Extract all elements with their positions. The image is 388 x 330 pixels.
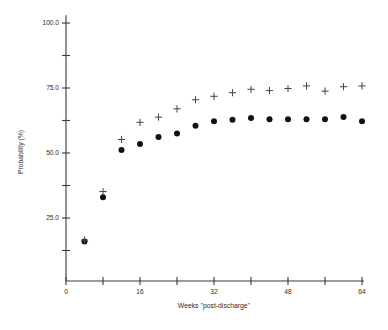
y-tick-label: 75.0: [46, 84, 59, 91]
data-point-circle: [137, 141, 143, 147]
data-point-circle: [267, 116, 273, 122]
x-tick-label: 16: [136, 288, 144, 295]
data-point-circle: [341, 114, 347, 120]
y-axis-title: Probability (%): [17, 130, 25, 174]
data-point-circle: [100, 194, 106, 200]
data-point-circle: [285, 116, 291, 122]
y-tick-label: 25.0: [46, 214, 59, 221]
data-point-circle: [156, 134, 162, 140]
x-tick-label: 32: [210, 288, 218, 295]
data-point-circle: [211, 118, 217, 124]
data-point-circle: [119, 147, 125, 153]
chart-canvas: 25.050.075.0100.0 016324864 Probability …: [0, 0, 388, 330]
data-point-circle: [359, 118, 365, 124]
x-axis-title: Weeks ''post-discharge'': [178, 302, 250, 310]
x-tick-label: 64: [358, 288, 366, 295]
data-point-circle: [248, 115, 254, 121]
data-point-circle: [193, 123, 199, 129]
scatter-plot-figure: 25.050.075.0100.0 016324864 Probability …: [0, 0, 388, 330]
y-tick-label: 100.0: [42, 19, 59, 26]
data-point-circle: [322, 116, 328, 122]
data-point-circle: [304, 116, 310, 122]
x-tick-label: 48: [284, 288, 292, 295]
data-point-circle: [230, 117, 236, 123]
y-tick-label: 50.0: [46, 149, 59, 156]
x-tick-label: 0: [64, 288, 68, 295]
data-point-circle: [174, 131, 180, 137]
